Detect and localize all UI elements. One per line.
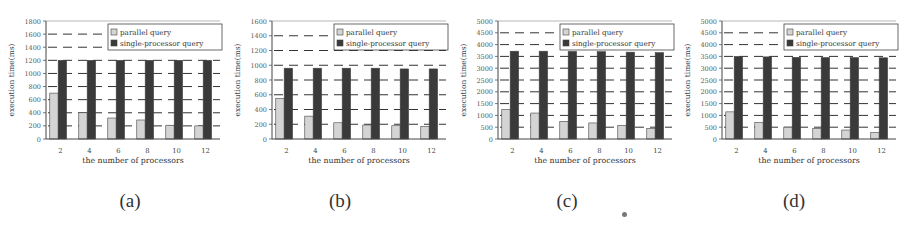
x-tick-label: 2 (284, 147, 288, 155)
legend: parallel querysingle-processor query (108, 24, 222, 50)
bar-parallel-query (363, 125, 371, 139)
legend: parallel querysingle-processor query (784, 24, 898, 50)
y-tick-label: 4000 (476, 41, 493, 49)
legend-label: parallel query (120, 28, 172, 37)
bar-chart: execution time(ms)0500100015002000250030… (452, 0, 676, 170)
bar-single-processor-query (87, 60, 95, 139)
x-tick-label: 12 (201, 147, 210, 155)
y-tick-label: 3000 (700, 65, 717, 73)
bar-parallel-query (50, 93, 58, 139)
x-tick-label: 10 (848, 147, 857, 155)
bar-single-processor-query (429, 69, 437, 139)
x-tick-label: 12 (653, 147, 662, 155)
y-tick-label: 2500 (700, 77, 717, 85)
caption-d: (d) (783, 190, 805, 212)
bar-parallel-query (842, 130, 850, 139)
x-tick-label: 12 (427, 147, 436, 155)
bar-single-processor-query (342, 68, 350, 139)
bar-parallel-query (502, 110, 510, 140)
y-tick-label: 200 (29, 122, 41, 130)
y-axis-label: execution time(ms) (459, 43, 468, 116)
bar-parallel-query (871, 133, 879, 139)
x-tick-label: 12 (877, 147, 886, 155)
y-tick-label: 1800 (24, 18, 41, 26)
bar-single-processor-query (58, 60, 66, 139)
bar-single-processor-query (174, 60, 182, 139)
x-tick-label: 4 (313, 147, 317, 155)
bar-parallel-query (618, 125, 626, 139)
bar-single-processor-query (284, 68, 292, 139)
bar-single-processor-query (371, 68, 379, 139)
bar-parallel-query (137, 120, 145, 139)
bar-parallel-query (813, 128, 821, 139)
x-axis-label: the number of processors (534, 156, 635, 165)
y-tick-label: 0 (37, 136, 41, 144)
bar-single-processor-query (400, 69, 408, 139)
x-tick-label: 4 (539, 147, 543, 155)
x-axis-label: the number of processors (758, 156, 859, 165)
legend-label: parallel query (346, 28, 398, 37)
y-axis-label: execution time(ms) (7, 43, 16, 116)
y-tick-label: 1600 (24, 31, 41, 39)
bar-parallel-query (531, 113, 539, 139)
y-tick-label: 1000 (700, 112, 717, 120)
y-tick-label: 1500 (476, 100, 493, 108)
x-axis-label: the number of processors (82, 156, 183, 165)
y-tick-label: 3000 (476, 65, 493, 73)
bar-parallel-query (195, 126, 203, 139)
bar-parallel-query (560, 121, 568, 139)
legend-label: parallel query (796, 28, 848, 37)
y-tick-label: 0 (263, 136, 267, 144)
y-tick-label: 1400 (250, 32, 267, 40)
y-tick-label: 1000 (476, 112, 493, 120)
x-tick-label: 8 (371, 147, 375, 155)
y-tick-label: 0 (489, 136, 493, 144)
bar-parallel-query (334, 123, 342, 139)
y-tick-label: 3500 (476, 53, 493, 61)
bar-single-processor-query (734, 56, 742, 139)
legend-label: single-processor query (796, 39, 880, 48)
bar-single-processor-query (655, 53, 663, 139)
bar-single-processor-query (626, 52, 634, 139)
bar-single-processor-query (510, 51, 518, 139)
y-tick-label: 4500 (476, 29, 493, 37)
y-tick-label: 1200 (24, 57, 41, 65)
x-tick-label: 6 (792, 147, 796, 155)
x-tick-label: 2 (510, 147, 514, 155)
y-tick-label: 800 (255, 77, 267, 85)
legend-label: single-processor query (346, 39, 430, 48)
y-tick-label: 4500 (700, 29, 717, 37)
caption-a: (a) (119, 190, 140, 212)
bar-parallel-query (726, 112, 734, 139)
bar-single-processor-query (597, 52, 605, 139)
y-tick-label: 5000 (700, 18, 717, 26)
bar-single-processor-query (821, 58, 829, 139)
bar-parallel-query (392, 126, 400, 139)
y-tick-label: 1500 (700, 100, 717, 108)
chart-panel-c: execution time(ms)0500100015002000250030… (452, 0, 676, 170)
legend-label: single-processor query (572, 39, 656, 48)
x-tick-label: 10 (172, 147, 181, 155)
legend-label: parallel query (572, 28, 624, 37)
speck-mark (622, 212, 627, 217)
bar-single-processor-query (850, 58, 858, 139)
y-tick-label: 500 (481, 124, 493, 132)
y-tick-label: 1400 (24, 44, 41, 52)
bar-parallel-query (166, 125, 174, 139)
x-tick-label: 4 (763, 147, 767, 155)
y-tick-label: 200 (255, 121, 267, 129)
y-tick-label: 1200 (250, 47, 267, 55)
x-tick-label: 6 (568, 147, 572, 155)
bar-parallel-query (784, 127, 792, 139)
bar-single-processor-query (763, 57, 771, 139)
x-tick-label: 10 (398, 147, 407, 155)
bar-parallel-query (421, 126, 429, 139)
legend-label: single-processor query (120, 39, 204, 48)
y-tick-label: 400 (255, 106, 267, 114)
chart-panel-d: execution time(ms)0500100015002000250030… (676, 0, 900, 170)
bar-parallel-query (589, 123, 597, 139)
bar-parallel-query (305, 116, 313, 139)
chart-panel-b: execution time(ms)0200400600800100012001… (226, 0, 450, 170)
y-tick-label: 600 (29, 96, 41, 104)
bar-single-processor-query (539, 51, 547, 139)
